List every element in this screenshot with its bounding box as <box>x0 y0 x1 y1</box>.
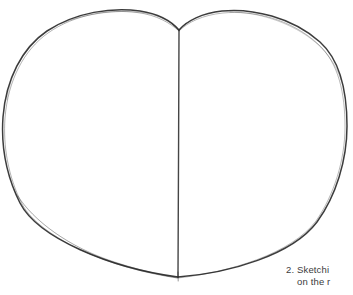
caption-line-1: 2. Sketchi <box>286 264 353 276</box>
caption-line-2: on the r <box>286 276 353 288</box>
heart-sketch-illustration <box>0 0 353 295</box>
instruction-caption: 2. Sketchi on the r <box>286 264 353 295</box>
sketch-page: 2. Sketchi on the r <box>0 0 353 295</box>
canvas-background <box>0 0 353 295</box>
